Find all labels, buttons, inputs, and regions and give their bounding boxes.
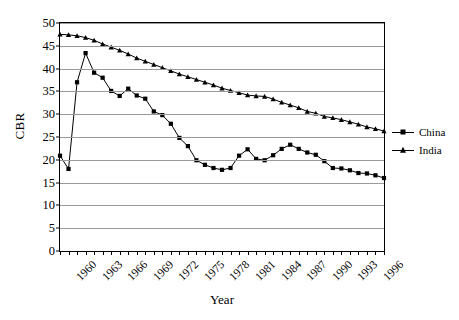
legend-swatch-china [392,126,414,138]
gridline [60,183,384,184]
y-tick-label: 5 [15,221,55,236]
y-axis-title: CBR [12,96,28,156]
data-point-china [135,93,139,97]
data-point-india [305,109,310,114]
x-tick-label: 1969 [150,258,175,283]
series-line-india [60,34,384,131]
data-point-china [373,173,377,177]
x-tick-mark [273,251,274,255]
x-tick-mark [154,251,155,255]
x-tick-label: 1984 [278,258,303,283]
triangle-marker-icon [400,147,406,153]
data-point-china [314,153,318,157]
legend-item-india[interactable]: India [392,142,445,158]
data-point-china [331,166,335,170]
x-tick-mark [307,251,308,255]
x-tick-mark [205,251,206,255]
x-tick-mark [282,251,283,255]
gridline [60,69,384,70]
x-tick-mark [350,251,351,255]
y-tick-mark [56,159,60,160]
legend-swatch-india [392,144,414,156]
x-tick-mark [222,251,223,255]
x-tick-mark [179,251,180,255]
y-tick-label: 30 [15,107,55,122]
x-tick-mark [231,251,232,255]
x-tick-mark [384,251,385,255]
data-point-china [75,80,79,84]
x-tick-mark [103,251,104,255]
data-point-china [83,51,87,55]
legend-label: China [419,126,445,138]
x-tick-label: 1972 [176,258,201,283]
y-tick-label: 35 [15,84,55,99]
x-tick-mark [120,251,121,255]
gridline [60,137,384,138]
x-tick-mark [239,251,240,255]
chart-legend: ChinaIndia [392,124,445,160]
x-tick-mark [171,251,172,255]
data-point-china [365,171,369,175]
gridline [60,160,384,161]
data-point-china [211,166,215,170]
data-point-china [356,171,360,175]
x-tick-mark [86,251,87,255]
y-tick-label: 40 [15,61,55,76]
data-point-china [203,163,207,167]
data-point-china [297,147,301,151]
x-tick-mark [333,251,334,255]
x-tick-label: 1975 [202,258,227,283]
data-point-china [92,71,96,75]
data-point-china [169,122,173,126]
y-tick-label: 45 [15,38,55,53]
x-tick-mark [196,251,197,255]
gridline [60,23,384,24]
x-tick-mark [299,251,300,255]
x-tick-label: 1963 [99,258,124,283]
x-tick-label: 1981 [253,258,278,283]
x-tick-mark [375,251,376,255]
y-tick-mark [56,68,60,69]
data-point-china [288,143,292,147]
data-point-china [245,147,249,151]
data-point-china [339,166,343,170]
x-tick-label: 1993 [355,258,380,283]
x-tick-mark [316,251,317,255]
square-marker-icon [401,130,406,135]
y-tick-label: 20 [15,152,55,167]
legend-item-china[interactable]: China [392,124,445,140]
data-point-china [220,168,224,172]
data-point-china [66,167,70,171]
gridline [60,205,384,206]
x-tick-label: 1966 [125,258,150,283]
y-tick-mark [56,45,60,46]
y-tick-label: 10 [15,198,55,213]
plot-area: 0510152025303540455019601963196619691972… [59,22,385,252]
data-point-india [134,56,139,61]
y-tick-mark [56,228,60,229]
x-tick-mark [367,251,368,255]
x-tick-mark [188,251,189,255]
x-tick-mark [256,251,257,255]
x-tick-mark [145,251,146,255]
data-point-china [237,154,241,158]
x-axis-title: Year [60,292,384,308]
x-tick-label: 1996 [381,258,406,283]
data-point-china [101,76,105,80]
x-tick-label: 1987 [304,258,329,283]
cbr-line-chart: CBR 051015202530354045501960196319661969… [0,0,459,320]
x-tick-mark [137,251,138,255]
x-tick-mark [60,251,61,255]
gridline [60,46,384,47]
data-point-china [186,144,190,148]
y-tick-label: 0 [15,244,55,259]
data-point-china [382,176,386,180]
x-tick-mark [213,251,214,255]
y-tick-mark [56,91,60,92]
x-tick-mark [77,251,78,255]
x-tick-mark [341,251,342,255]
data-point-china [271,153,275,157]
x-tick-mark [248,251,249,255]
data-point-china [118,94,122,98]
x-tick-label: 1978 [227,258,252,283]
